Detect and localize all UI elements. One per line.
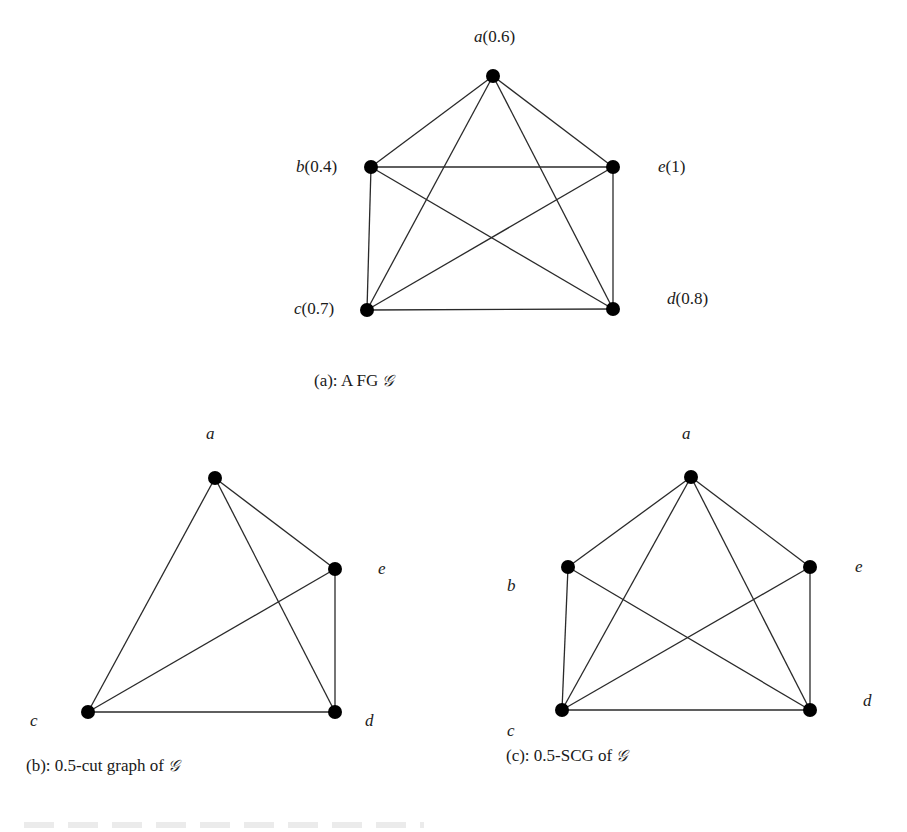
node-a-a (486, 69, 500, 83)
edges-layer (88, 76, 810, 712)
script-g-symbol: 𝒢 (616, 746, 627, 765)
caption-graph-c: (c): 0.5-SCG of 𝒢 (506, 747, 627, 764)
node-label-b-e: e (378, 560, 386, 577)
caption-graph-b-text: (b): 0.5-cut graph of (26, 756, 168, 775)
node-b-d (328, 705, 342, 719)
node-b-a (208, 471, 222, 485)
caption-graph-a: (a): A FG 𝒢 (314, 372, 393, 389)
node-c-a (684, 470, 698, 484)
node-a-d (606, 302, 620, 316)
caption-graph-b: (b): 0.5-cut graph of 𝒢 (26, 757, 179, 774)
edge-a-a-c (367, 76, 493, 310)
node-label-c-b: b (507, 577, 516, 594)
edge-b-a-e (215, 478, 335, 569)
edge-c-b-c (562, 567, 568, 710)
edge-a-c-d (367, 309, 613, 310)
script-g-symbol: 𝒢 (168, 756, 179, 775)
node-a-b (364, 160, 378, 174)
edge-c-a-b (568, 477, 691, 567)
node-c-d (803, 703, 817, 717)
caption-graph-c-text: (c): 0.5-SCG of (506, 746, 616, 765)
edge-a-a-b (371, 76, 493, 167)
node-label-b-d: d (365, 712, 374, 729)
node-label-a-e: e(1) (658, 158, 685, 175)
edge-a-b-c (367, 167, 371, 310)
node-label-a-d: d(0.8) (667, 290, 708, 307)
cropped-text-line (24, 822, 424, 828)
edge-b-a-d (215, 478, 335, 712)
edge-c-a-e (691, 477, 810, 567)
edge-b-a-c (88, 478, 215, 712)
script-g-symbol: 𝒢 (382, 371, 393, 390)
node-label-c-c: c (507, 722, 515, 739)
node-label-b-a: a (206, 425, 215, 442)
node-label-a-a: a(0.6) (474, 28, 515, 45)
edge-c-a-c (562, 477, 691, 710)
node-c-e (803, 560, 817, 574)
node-c-c (555, 703, 569, 717)
node-c-b (561, 560, 575, 574)
node-label-a-c: c(0.7) (294, 300, 334, 317)
edge-a-a-e (493, 76, 613, 167)
node-label-c-d: d (863, 692, 872, 709)
node-label-a-b: b(0.4) (296, 158, 337, 175)
node-a-c (360, 303, 374, 317)
node-label-c-a: a (682, 425, 691, 442)
node-b-e (328, 562, 342, 576)
node-label-c-e: e (855, 558, 863, 575)
figure-canvas (0, 0, 907, 832)
node-b-c (81, 705, 95, 719)
caption-graph-a-text: (a): A FG (314, 371, 382, 390)
node-a-e (606, 160, 620, 174)
node-label-b-c: c (30, 712, 38, 729)
